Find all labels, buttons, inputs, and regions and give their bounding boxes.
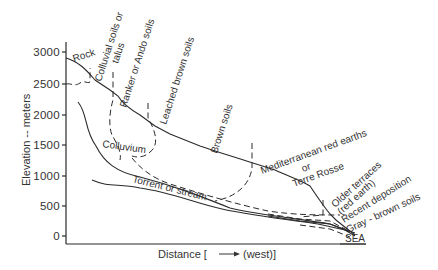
y-axis-title: Elevation -- meters	[20, 93, 32, 186]
label-mediterranean-1: Mediterranean red earths	[259, 127, 368, 176]
x-axis-title-suffix: (west)]	[243, 248, 276, 260]
label-sea: SEA	[345, 233, 365, 244]
label-ranker: Ranker or Ando soils	[117, 17, 156, 108]
x-axis-title-text: Distance [	[158, 248, 207, 260]
arrow-head-icon	[234, 252, 240, 257]
gray-brown-line	[300, 225, 350, 237]
y-tick-label: 3000	[33, 46, 60, 58]
y-tick-label: 2000	[33, 109, 60, 121]
label-mediterranean-3: Terre Rosse	[291, 160, 346, 189]
soil-labels: Rock Colluvial soils or talus Ranker or …	[71, 10, 422, 244]
coastal-line-1	[268, 216, 350, 232]
x-axis-title: Distance [ (west)]	[158, 248, 276, 260]
label-colluvium: Colluvium	[102, 138, 147, 155]
y-tick-labels: 3000 2500 2000 1500 1000 500 0	[33, 46, 60, 242]
y-tick-label: 1000	[33, 170, 60, 182]
y-tick-label: 1500	[33, 139, 60, 151]
torrent-stream-line	[92, 180, 355, 236]
label-rock: Rock	[71, 46, 97, 64]
y-tick-label: 2500	[33, 78, 60, 90]
colluvium-boundary-line	[78, 102, 355, 233]
label-leached-brown: Leached brown soils	[157, 36, 196, 126]
label-brown-soils: Brown soils	[208, 103, 234, 155]
y-tick-label: 0	[53, 230, 60, 242]
label-torrent: Torrent or stream	[132, 173, 209, 202]
soil-catena-diagram: 3000 2500 2000 1500 1000 500 0 Elevation…	[0, 0, 438, 270]
y-tick-label: 500	[40, 200, 60, 212]
mediterranean-boundary	[215, 143, 252, 201]
